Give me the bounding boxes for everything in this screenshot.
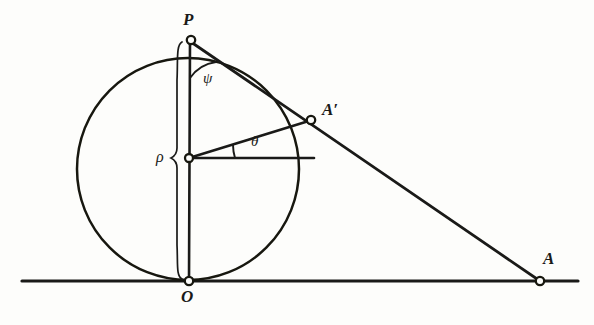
rho-brace: [171, 42, 182, 279]
figure-canvas: P A′ A O ψ θ ρ: [0, 0, 594, 325]
label-angle-psi: ψ: [203, 71, 212, 86]
angle-theta-arc: [233, 145, 235, 158]
label-radius-rho: ρ: [156, 149, 164, 165]
label-point-P: P: [183, 11, 193, 28]
point-marker-O: [185, 277, 193, 285]
point-marker-P: [187, 36, 195, 44]
label-point-A: A: [543, 250, 554, 267]
label-point-A-prime: A′: [322, 101, 338, 118]
point-marker-center-rho: [185, 154, 193, 162]
geometry-figure: [0, 0, 594, 325]
label-point-O: O: [181, 288, 193, 305]
point-marker-Aprime: [307, 116, 315, 124]
secant-segment-P-to-A: [191, 42, 540, 281]
label-angle-theta: θ: [251, 134, 258, 149]
point-marker-A: [536, 277, 544, 285]
